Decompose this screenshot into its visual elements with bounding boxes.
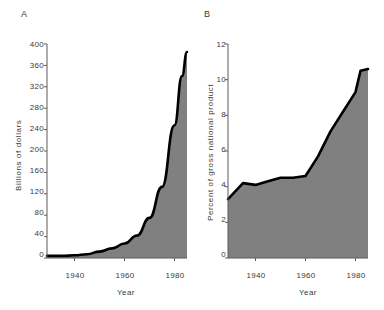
- panel-a-ytick-400: 400: [22, 40, 44, 49]
- panel-b-xtick-1960: 1960: [297, 271, 316, 280]
- panel-a-xlabel: Year: [0, 288, 222, 297]
- panel-b-ytick-10: 10: [212, 75, 226, 84]
- panel-a-ytick-160: 160: [22, 166, 44, 175]
- panel-b-ytick-0: 0: [212, 250, 226, 259]
- panel-a-xtick-1980: 1980: [166, 271, 185, 280]
- panel-b-ytick-6: 6: [212, 145, 226, 154]
- panel-b-xtick-1940: 1940: [247, 271, 266, 280]
- panel-a-ytick-120: 120: [22, 187, 44, 196]
- panel-a-ytick-0: 0: [22, 250, 44, 259]
- panel-b-ytick-12: 12: [212, 40, 226, 49]
- panel-a-ytick-360: 360: [22, 61, 44, 70]
- panel-a-ytick-240: 240: [22, 124, 44, 133]
- panel-a-xtick-1960: 1960: [116, 271, 135, 280]
- figure-container: A Billions of dollars Year 0 40 80 120 1…: [0, 0, 384, 310]
- panel-b-ytick-2: 2: [212, 215, 226, 224]
- panel-b-xlabel: Year: [192, 288, 384, 297]
- panel-a-ytick-280: 280: [22, 103, 44, 112]
- panel-a-ytick-80: 80: [22, 208, 44, 217]
- panel-b-xtick-1980: 1980: [347, 271, 366, 280]
- panel-a-ytick-40: 40: [22, 229, 44, 238]
- panel-a-ytick-320: 320: [22, 82, 44, 91]
- panel-b: B Percent of gross national product Year…: [192, 0, 384, 310]
- panel-a: A Billions of dollars Year 0 40 80 120 1…: [0, 0, 192, 310]
- panel-b-ytick-8: 8: [212, 110, 226, 119]
- panel-b-ytick-4: 4: [212, 180, 226, 189]
- panel-a-xtick-1940: 1940: [66, 271, 85, 280]
- panel-a-ytick-200: 200: [22, 145, 44, 154]
